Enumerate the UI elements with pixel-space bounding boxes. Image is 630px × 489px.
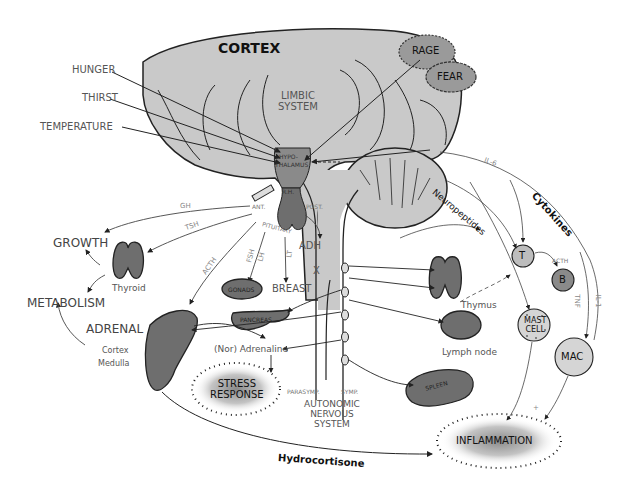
anterior-pituitary-label: ANT.	[252, 203, 265, 210]
noradrenaline-label: (Nor) Adrenaline	[214, 344, 288, 354]
limbic-system-label: LIMBIC SYSTEM	[278, 90, 318, 112]
acth-b-label: ACTH	[552, 257, 568, 264]
il1-label: IL-1	[594, 295, 602, 308]
adrenal-label: ADRENAL	[86, 322, 143, 336]
tnf-label: TNF	[573, 294, 581, 308]
inflammation-label: INFLAMMATION	[456, 435, 533, 446]
organs	[113, 242, 481, 406]
rage-label: RAGE	[412, 45, 439, 56]
sympathetic-label: SYMP.	[341, 388, 358, 395]
adrenal-cortex-label: Cortex	[102, 346, 128, 355]
temperature-label: TEMPERATURE	[40, 121, 113, 132]
breast-label: BREAST	[272, 283, 311, 294]
t-cell-label: T	[519, 250, 525, 261]
hypothalamus-label-2: THALAMUS	[275, 161, 308, 168]
plus-label: +	[533, 404, 539, 412]
thirst-label: THIRST	[82, 92, 118, 103]
autonomic-nervous-system-label: AUTONOMIC NERVOUS SYSTEM	[304, 399, 360, 429]
growth-label: GROWTH	[53, 236, 108, 250]
mast-cell-label: MAST CELL	[524, 316, 546, 334]
ans-line2: NERVOUS	[304, 409, 360, 419]
hypothalamus-label-1: HYPO-	[279, 153, 298, 160]
fear-label: FEAR	[437, 71, 463, 82]
limbic-line2: SYSTEM	[278, 101, 318, 112]
cortex-label: CORTEX	[218, 40, 280, 56]
ans-line3: SYSTEM	[304, 419, 360, 429]
mast-line1: MAST	[524, 316, 546, 325]
b-cell-label: B	[559, 274, 566, 285]
gh-label: GH	[180, 202, 191, 210]
hunger-label: HUNGER	[72, 64, 115, 75]
lymph-node-label: Lymph node	[442, 347, 497, 357]
diagram-canvas: CORTEX LIMBIC SYSTEM RAGE FEAR HYPO- THA…	[0, 0, 630, 489]
stress-line2: RESPONSE	[210, 389, 264, 400]
macrophage-label: MAC	[561, 351, 583, 362]
ans-line1: AUTONOMIC	[304, 399, 360, 409]
thymus-label: Thymus	[461, 300, 497, 310]
posterior-pituitary-label: POST.	[306, 203, 323, 210]
stress-line1: STRESS	[210, 378, 264, 389]
stress-response-label: STRESS RESPONSE	[210, 378, 264, 400]
adrenal-medulla-label: Medulla	[98, 359, 129, 368]
metabolism-label: METABOLISM	[27, 296, 105, 310]
lt-label: LT	[285, 250, 294, 258]
rh-label: R.H.	[282, 188, 294, 195]
thyroid-label: Thyroid	[112, 283, 146, 293]
mast-line2: CELL	[524, 325, 546, 334]
limbic-line1: LIMBIC	[278, 90, 318, 101]
gonads-label: GONADS	[228, 286, 254, 293]
pancreas-label: PANCREAS	[240, 316, 272, 323]
vagus-x-label: X	[313, 265, 320, 276]
parasympathetic-label: PARASYMP.	[287, 388, 320, 395]
adh-label: ADH	[299, 240, 321, 251]
